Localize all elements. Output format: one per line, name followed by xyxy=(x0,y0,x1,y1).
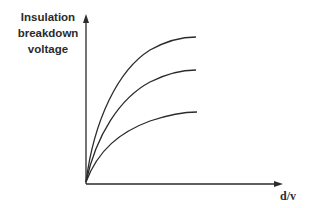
y-axis-arrow-icon xyxy=(83,14,89,23)
x-axis-label: d/v xyxy=(280,189,296,204)
curve-upper xyxy=(86,37,196,182)
plot-area xyxy=(0,0,314,208)
curve-middle xyxy=(86,70,196,182)
x-axis-arrow-icon xyxy=(274,181,283,187)
curve-lower xyxy=(86,112,197,182)
breakdown-voltage-diagram: Insulation breakdown voltage d/v xyxy=(0,0,314,208)
